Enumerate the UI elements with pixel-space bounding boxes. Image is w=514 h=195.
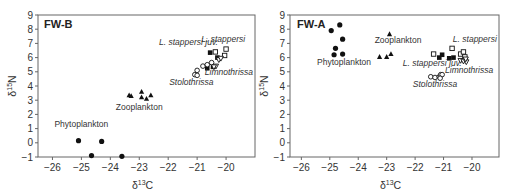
data-point — [139, 89, 144, 94]
y-tick-label: 1 — [279, 123, 285, 134]
y-tick-label: 5 — [279, 66, 285, 77]
group-label: Limnothrissa — [205, 67, 253, 77]
group-label: Zooplankton — [116, 102, 163, 112]
data-point — [388, 51, 393, 56]
y-tick-label: 6 — [27, 52, 33, 63]
y-tick-label: 8 — [27, 24, 33, 35]
y-tick-label: 9 — [27, 10, 33, 21]
panel-fw-a: FW-A −10123456789−26−25−24−23−22−21−20δ1… — [258, 10, 499, 192]
x-tick-label: −23 — [378, 162, 395, 173]
data-point — [224, 47, 228, 51]
data-point — [89, 153, 94, 158]
data-point — [329, 28, 334, 33]
stable-isotope-biplot-figure: FW-B −10123456789−26−25−24−23−22−21−20δ1… — [0, 0, 514, 195]
group-label: Stolothrissa — [169, 77, 214, 87]
group-label: Zooplankton — [375, 35, 422, 45]
y-axis-title: δ15N — [258, 75, 270, 96]
y-tick-label: 0 — [27, 137, 33, 148]
data-point — [205, 62, 210, 67]
y-tick-label: 3 — [27, 95, 33, 106]
x-tick-label: −26 — [44, 162, 61, 173]
data-point — [333, 46, 338, 51]
x-tick-label: −25 — [321, 162, 338, 173]
y-tick-label: 2 — [27, 109, 33, 120]
x-tick-label: −24 — [102, 162, 119, 173]
data-point — [213, 50, 217, 54]
y-tick-label: 5 — [27, 66, 33, 77]
y-tick-label: 1 — [27, 123, 33, 134]
data-point — [440, 52, 445, 57]
group-label: Phytoplankton — [317, 57, 371, 67]
x-tick-label: −26 — [293, 162, 310, 173]
series-phytoplankton: Phytoplankton — [54, 119, 124, 159]
x-tick-label: −22 — [160, 162, 177, 173]
data-point — [431, 52, 435, 56]
panel-title: FW-A — [297, 18, 326, 30]
x-tick-label: −20 — [464, 162, 481, 173]
x-axis-title: δ13C — [132, 179, 154, 191]
panel-title: FW-B — [44, 18, 73, 30]
y-tick-label: −1 — [274, 152, 286, 163]
data-point — [337, 22, 342, 27]
y-tick-label: 3 — [279, 95, 285, 106]
group-label: L. stappersi — [453, 34, 498, 44]
series-limnothrissa: Limnothrissa — [205, 56, 253, 76]
data-point — [384, 54, 389, 59]
y-tick-label: 7 — [279, 38, 285, 49]
group-label: Stolothrissa — [413, 79, 458, 89]
panel-fw-b: FW-B −10123456789−26−25−24−23−22−21−20δ1… — [6, 10, 255, 192]
y-tick-label: 4 — [27, 81, 33, 92]
data-point — [99, 139, 104, 144]
data-point — [144, 96, 149, 101]
y-tick-label: 2 — [279, 109, 285, 120]
group-label: Limnothrissa — [445, 65, 493, 75]
x-tick-label: −21 — [435, 162, 452, 173]
data-point — [148, 92, 153, 97]
x-tick-label: −25 — [73, 162, 90, 173]
data-point — [340, 37, 345, 42]
data-point — [450, 46, 454, 50]
y-tick-label: 8 — [279, 24, 285, 35]
data-point — [139, 95, 144, 100]
x-tick-label: −22 — [407, 162, 424, 173]
data-point — [208, 50, 213, 55]
group-label: Phytoplankton — [54, 119, 108, 129]
x-tick-label: −21 — [189, 162, 206, 173]
series-zooplankton: Zooplankton — [375, 31, 422, 59]
y-tick-label: 7 — [27, 38, 33, 49]
y-tick-label: 6 — [279, 52, 285, 63]
y-tick-label: 9 — [279, 10, 285, 21]
x-tick-label: −20 — [218, 162, 235, 173]
group-label: L. stappersi — [201, 34, 246, 44]
x-tick-label: −23 — [131, 162, 148, 173]
x-axis-title: δ13C — [380, 179, 402, 191]
data-point — [119, 154, 124, 159]
data-point — [461, 50, 465, 54]
y-axis-title: δ15N — [6, 75, 18, 96]
x-tick-label: −24 — [350, 162, 367, 173]
y-tick-label: 0 — [279, 137, 285, 148]
series-zooplankton: Zooplankton — [116, 89, 163, 112]
y-tick-label: 4 — [279, 81, 285, 92]
data-point — [209, 60, 214, 65]
y-tick-label: −1 — [22, 152, 34, 163]
data-point — [377, 54, 382, 59]
data-point — [76, 138, 81, 143]
